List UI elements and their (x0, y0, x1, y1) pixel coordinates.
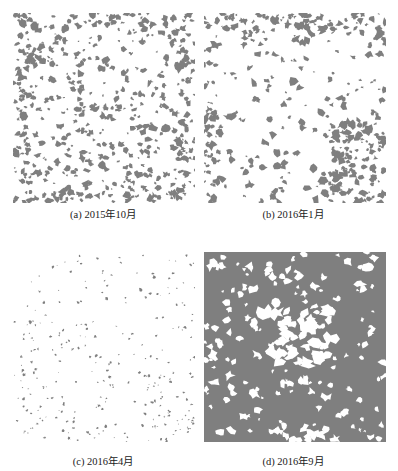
panel-d-pattern (204, 252, 386, 442)
panel-b-caption: (b) 2016年1月 (198, 206, 388, 221)
panel-a-pattern (13, 13, 195, 203)
panel-a-map (13, 13, 195, 203)
panel-c-pattern (13, 252, 195, 442)
panel-c-map (13, 252, 195, 442)
panel-d-caption: (d) 2016年9月 (198, 453, 388, 468)
panel-b-pattern (204, 13, 386, 203)
panel-c-caption: (c) 2016年4月 (8, 453, 198, 468)
panel-b-map (204, 13, 386, 203)
panel-d-map (204, 252, 386, 442)
panel-a-caption: (a) 2015年10月 (8, 206, 198, 221)
